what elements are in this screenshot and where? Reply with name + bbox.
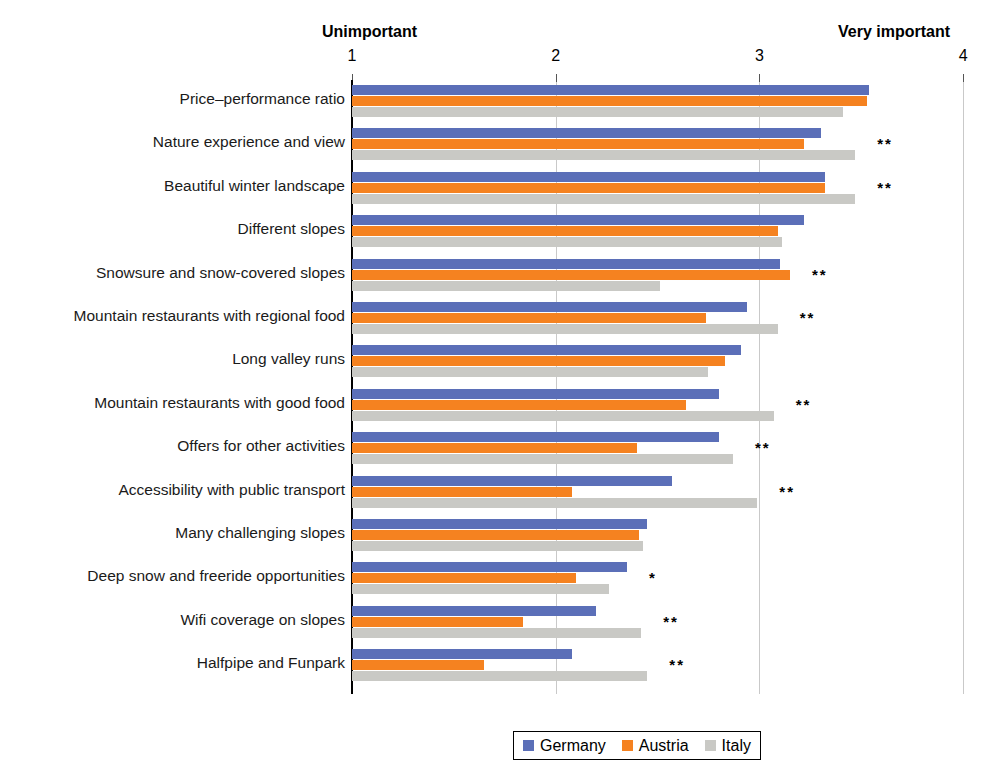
bar-germany: [352, 389, 719, 399]
bar-austria: [352, 617, 523, 627]
category-label: Different slopes: [0, 221, 345, 237]
bar-germany: [352, 476, 672, 486]
bar-germany: [352, 259, 780, 269]
bar-italy: [352, 367, 708, 377]
bar-germany: [352, 345, 741, 355]
significance-marker: **: [755, 440, 771, 455]
legend-label: Italy: [722, 737, 751, 755]
bar-italy: [352, 237, 782, 247]
significance-marker: **: [877, 180, 893, 195]
bar-austria: [352, 487, 572, 497]
x-tickmark-3: [759, 74, 760, 82]
significance-marker: **: [877, 136, 893, 151]
significance-marker: **: [812, 267, 828, 282]
bar-germany: [352, 128, 821, 138]
bar-group: Many challenging slopes: [0, 519, 1001, 551]
axis-caption-high: Very important: [838, 23, 950, 41]
bar-italy: [352, 150, 855, 160]
category-label: Nature experience and view: [0, 134, 345, 150]
bar-italy: [352, 107, 843, 117]
bar-italy: [352, 324, 778, 334]
axis-caption-low: Unimportant: [322, 23, 417, 41]
bar-group: Long valley runs: [0, 345, 1001, 377]
bar-group: Offers for other activities**: [0, 432, 1001, 464]
bar-group: Accessibility with public transport**: [0, 476, 1001, 508]
category-label: Beautiful winter landscape: [0, 178, 345, 194]
bar-italy: [352, 671, 647, 681]
category-label: Long valley runs: [0, 351, 345, 367]
bar-germany: [352, 519, 647, 529]
category-label: Snowsure and snow-covered slopes: [0, 265, 345, 281]
x-tick-label-2: 2: [536, 47, 576, 65]
bar-germany: [352, 432, 719, 442]
bar-germany: [352, 302, 747, 312]
legend-label: Germany: [540, 737, 606, 755]
bar-austria: [352, 660, 484, 670]
bar-austria: [352, 313, 706, 323]
significance-marker: **: [669, 657, 685, 672]
bar-germany: [352, 649, 572, 659]
bar-germany: [352, 215, 804, 225]
bar-group: Price–performance ratio: [0, 85, 1001, 117]
significance-marker: *: [649, 570, 657, 585]
bar-germany: [352, 85, 869, 95]
bar-austria: [352, 139, 804, 149]
category-label: Halfpipe and Funpark: [0, 655, 345, 671]
bar-chart: Unimportant Very important 1234 Price–pe…: [0, 0, 1001, 784]
legend-item-austria: Austria: [622, 737, 689, 755]
bar-italy: [352, 498, 757, 508]
chart-legend: GermanyAustriaItaly: [513, 731, 761, 760]
legend-swatch-icon: [705, 740, 716, 751]
x-tickmark-4: [963, 74, 964, 82]
bar-italy: [352, 628, 641, 638]
legend-item-italy: Italy: [705, 737, 751, 755]
category-label: Wifi coverage on slopes: [0, 612, 345, 628]
significance-marker: **: [779, 484, 795, 499]
x-tick-label-4: 4: [943, 47, 983, 65]
category-label: Deep snow and freeride opportunities: [0, 568, 345, 584]
significance-marker: **: [663, 614, 679, 629]
bar-germany: [352, 562, 627, 572]
bar-italy: [352, 281, 660, 291]
category-label: Mountain restaurants with regional food: [0, 308, 345, 324]
category-label: Many challenging slopes: [0, 525, 345, 541]
bar-italy: [352, 194, 855, 204]
bar-italy: [352, 454, 733, 464]
bar-group: Mountain restaurants with good food**: [0, 389, 1001, 421]
bar-germany: [352, 606, 596, 616]
significance-marker: **: [796, 397, 812, 412]
category-label: Price–performance ratio: [0, 91, 345, 107]
significance-marker: **: [800, 310, 816, 325]
bar-group: Halfpipe and Funpark**: [0, 649, 1001, 681]
bar-austria: [352, 270, 790, 280]
legend-swatch-icon: [523, 740, 534, 751]
bar-group: Different slopes: [0, 215, 1001, 247]
bar-austria: [352, 183, 825, 193]
bar-austria: [352, 96, 867, 106]
bar-austria: [352, 356, 725, 366]
bar-austria: [352, 226, 778, 236]
bar-germany: [352, 172, 825, 182]
legend-label: Austria: [639, 737, 689, 755]
bar-austria: [352, 443, 637, 453]
x-tick-label-3: 3: [739, 47, 779, 65]
category-label: Accessibility with public transport: [0, 482, 345, 498]
category-label: Offers for other activities: [0, 438, 345, 454]
legend-item-germany: Germany: [523, 737, 606, 755]
category-label: Mountain restaurants with good food: [0, 395, 345, 411]
bar-group: Mountain restaurants with regional food*…: [0, 302, 1001, 334]
bar-austria: [352, 530, 639, 540]
bar-group: Beautiful winter landscape**: [0, 172, 1001, 204]
bar-austria: [352, 573, 576, 583]
bar-group: Nature experience and view**: [0, 128, 1001, 160]
bar-italy: [352, 411, 774, 421]
bar-group: Snowsure and snow-covered slopes**: [0, 259, 1001, 291]
bar-italy: [352, 584, 609, 594]
bar-group: Wifi coverage on slopes**: [0, 606, 1001, 638]
x-tickmark-2: [556, 74, 557, 82]
legend-swatch-icon: [622, 740, 633, 751]
bar-group: Deep snow and freeride opportunities*: [0, 562, 1001, 594]
x-tick-label-1: 1: [332, 47, 372, 65]
bar-austria: [352, 400, 686, 410]
bar-italy: [352, 541, 643, 551]
